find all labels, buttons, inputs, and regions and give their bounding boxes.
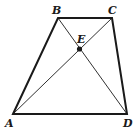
point-e-dot	[77, 46, 82, 51]
diagonal-ac	[13, 18, 112, 114]
label-e: E	[76, 33, 86, 46]
trapezoid-abcd	[13, 18, 127, 114]
label-d: D	[122, 117, 133, 130]
label-c: C	[108, 4, 117, 17]
diagonal-bd	[58, 18, 127, 114]
label-a: A	[4, 117, 14, 130]
trapezoid-diagram: B C E A D	[0, 0, 135, 130]
label-b: B	[51, 4, 61, 17]
